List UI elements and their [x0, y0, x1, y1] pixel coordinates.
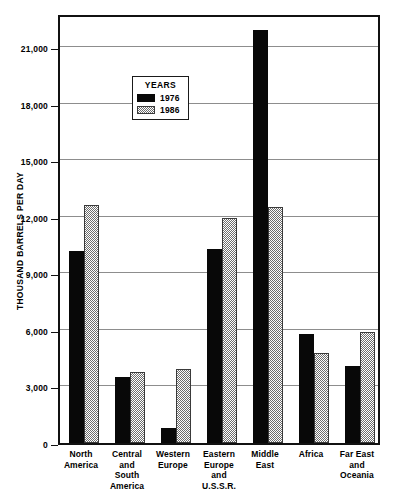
legend-label-1976: 1976: [160, 93, 180, 103]
legend-item-1986: 1986: [137, 105, 184, 115]
bar-1976-2: [115, 377, 130, 443]
y-axis-tick-mark: [51, 106, 58, 107]
x-axis-label: Western Europe: [147, 449, 199, 470]
bar-pair: [299, 17, 329, 443]
bar-1986-2: [130, 372, 145, 443]
y-axis-tick-label: 15,000: [0, 157, 48, 167]
bar-pair: [207, 17, 237, 443]
y-axis-tick-mark: [51, 275, 58, 276]
y-axis-tick-label: 3,000: [0, 383, 48, 393]
legend-swatch-1976: [137, 94, 155, 102]
y-axis-tick-mark: [51, 445, 58, 446]
y-axis-tick-label: 9,000: [0, 270, 48, 280]
bar-1976-6: [299, 334, 314, 443]
x-axis-label: Eastern Europe and U.S.S.R.: [193, 449, 245, 491]
bar-1986-5: [268, 207, 283, 443]
bar-pair: [69, 17, 99, 443]
x-axis-label: Middle East: [239, 449, 291, 470]
legend-swatch-1986: [137, 106, 155, 114]
y-axis-tick-label: 6,000: [0, 327, 48, 337]
bar-1986-4: [222, 218, 237, 443]
legend: YEARS 1976 1986: [132, 76, 189, 120]
plot-area: [58, 15, 380, 445]
bar-1976-4: [207, 249, 222, 443]
y-axis-tick-label: 18,000: [0, 101, 48, 111]
bar-1986-3: [176, 369, 191, 443]
y-axis-tick-mark: [51, 388, 58, 389]
bar-pair: [253, 17, 283, 443]
bar-1976-7: [345, 366, 360, 443]
y-axis-tick-mark: [51, 162, 58, 163]
y-axis-tick-mark: [51, 219, 58, 220]
y-axis-tick-mark: [51, 49, 58, 50]
bar-pair: [345, 17, 375, 443]
y-axis-tick-label: 12,000: [0, 214, 48, 224]
x-axis-label: Africa: [285, 449, 337, 460]
bar-chart: THOUSAND BARRELS PER DAY 03,0006,0009,00…: [0, 0, 399, 503]
legend-label-1986: 1986: [160, 105, 180, 115]
bar-1976-1: [69, 251, 84, 443]
y-axis-title: THOUSAND BARRELS PER DAY: [15, 141, 25, 341]
x-axis-label: Central and South America: [101, 449, 153, 491]
legend-item-1976: 1976: [137, 93, 184, 103]
bar-1976-5: [253, 30, 268, 443]
y-axis-tick-mark: [51, 332, 58, 333]
x-axis-label: North America: [55, 449, 107, 470]
bar-1986-1: [84, 205, 99, 443]
x-axis-label: Far East and Oceania: [331, 449, 383, 481]
y-axis-tick-label: 0: [0, 440, 48, 450]
bar-1986-7: [360, 332, 375, 443]
bar-1976-3: [161, 428, 176, 443]
bar-group: [60, 17, 378, 443]
bar-1986-6: [314, 353, 329, 443]
x-axis-label-group: North AmericaCentral and South AmericaWe…: [58, 449, 380, 503]
legend-title: YEARS: [137, 80, 184, 90]
y-axis-tick-label: 21,000: [0, 44, 48, 54]
